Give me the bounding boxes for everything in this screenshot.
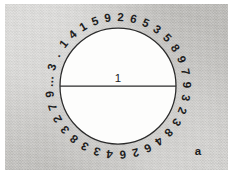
pi-digit: 3 bbox=[57, 123, 71, 137]
pi-digit: 9 bbox=[42, 90, 56, 99]
pi-digit: 1 bbox=[56, 37, 71, 50]
pi-digit: 2 bbox=[176, 105, 190, 116]
pi-digit: 1 bbox=[77, 19, 90, 34]
pi-digit: 3 bbox=[44, 61, 58, 71]
pi-digit: 2 bbox=[50, 113, 65, 125]
pi-digit: 6 bbox=[142, 141, 154, 156]
pi-digit: 3 bbox=[170, 116, 185, 129]
pi-digit: 5 bbox=[141, 15, 153, 30]
pi-digit: . bbox=[50, 50, 63, 59]
pi-digit: 3 bbox=[91, 145, 102, 160]
pi-digit: 4 bbox=[105, 148, 114, 162]
pi-digit: 9 bbox=[103, 10, 112, 24]
figure-root: 1 3.141592653589793238462643383279… a bbox=[0, 0, 233, 175]
pi-digit: 6 bbox=[118, 149, 126, 162]
pi-digit: 3 bbox=[179, 94, 193, 103]
pi-digit: 7 bbox=[45, 102, 59, 112]
pi-digit: 4 bbox=[152, 135, 165, 150]
pi-digit: 9 bbox=[175, 54, 190, 65]
pi-digit: 3 bbox=[151, 22, 164, 37]
pi-digit: 8 bbox=[162, 126, 176, 140]
pi-digit: 6 bbox=[129, 11, 139, 25]
pi-digit: 2 bbox=[117, 10, 124, 23]
pi-digit: 5 bbox=[89, 13, 100, 28]
pi-digit: 3 bbox=[78, 139, 90, 154]
pi-digit: 4 bbox=[65, 27, 79, 41]
pi-digit: 9 bbox=[181, 82, 194, 89]
circle-pi-diagram: 1 3.141592653589793238462643383279… a bbox=[0, 0, 233, 175]
diameter-label: 1 bbox=[115, 72, 121, 84]
pi-digit: 8 bbox=[67, 132, 81, 146]
pi-digit: 5 bbox=[161, 31, 175, 45]
pi-digit: 7 bbox=[179, 67, 193, 76]
pi-digit: 8 bbox=[169, 41, 184, 54]
figure-label: a bbox=[195, 145, 202, 157]
pi-digit: 2 bbox=[131, 146, 141, 160]
pi-digit: … bbox=[42, 75, 56, 88]
